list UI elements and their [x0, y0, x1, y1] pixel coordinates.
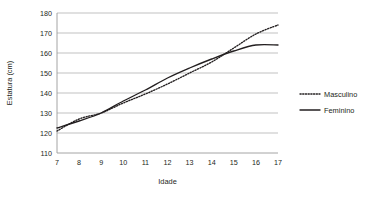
- legend-label-masculino: Masculino: [324, 90, 357, 99]
- x-tick-label: 11: [142, 158, 149, 167]
- x-axis-title: Idade: [158, 177, 177, 186]
- legend-label-feminino: Feminino: [324, 106, 354, 115]
- y-tick-label: 170: [40, 29, 52, 38]
- y-tick-label: 160: [40, 49, 52, 58]
- height-by-age-chart: 180 170 160 150 140 130 120 110 7 8 9 10…: [0, 0, 375, 200]
- x-tick-label: 8: [77, 158, 81, 167]
- chart-svg: 180 170 160 150 140 130 120 110 7 8 9 10…: [0, 0, 375, 200]
- y-tick-label: 180: [40, 9, 52, 18]
- y-tick-label: 140: [40, 89, 52, 98]
- x-tick-label: 16: [252, 158, 260, 167]
- y-tick-label: 120: [40, 129, 52, 138]
- y-tick-label: 110: [41, 149, 52, 158]
- legend: Masculino Feminino: [300, 90, 357, 115]
- x-tick-label: 15: [230, 158, 238, 167]
- x-tick-label: 10: [119, 158, 127, 167]
- x-tick-labels: 7 8 9 10 11 12 13 14 15 16 17: [55, 158, 282, 167]
- y-tick-label: 150: [40, 69, 52, 78]
- plot-series: [57, 25, 278, 131]
- x-tick-label: 14: [208, 158, 216, 167]
- axes: [57, 13, 278, 153]
- x-tick-label: 13: [186, 158, 194, 167]
- y-tick-labels: 180 170 160 150 140 130 120 110: [40, 9, 52, 158]
- x-tick-label: 9: [99, 158, 103, 167]
- gridlines: [57, 13, 278, 133]
- x-tick-label: 17: [274, 158, 282, 167]
- y-tick-label: 130: [40, 109, 52, 118]
- x-tick-label: 7: [55, 158, 59, 167]
- y-axis-title: Estatura (cm): [5, 61, 14, 105]
- x-tick-label: 12: [164, 158, 172, 167]
